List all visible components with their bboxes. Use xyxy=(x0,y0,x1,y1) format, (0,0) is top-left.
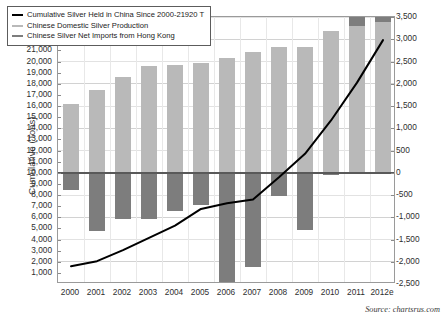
tick-mark xyxy=(391,128,394,129)
tick-mark xyxy=(58,184,61,185)
tick-mark xyxy=(58,139,61,140)
tick-mark xyxy=(58,151,61,152)
tick-mark xyxy=(391,262,394,263)
y-axis-right-tick: -2,000 xyxy=(396,257,420,265)
y-axis-right-tick: 2,500 xyxy=(396,57,417,65)
x-axis-tick-2006: 2006 xyxy=(217,287,235,297)
y-axis-left-tick: 18,000 xyxy=(27,79,52,87)
tick-mark xyxy=(58,73,61,74)
tick-mark xyxy=(391,62,394,63)
source-caption: Source: chartsrus.com xyxy=(365,305,440,314)
y-axis-left-tick: 5,000 xyxy=(31,223,52,231)
x-axis-tick-2005: 2005 xyxy=(191,287,209,297)
tick-mark xyxy=(58,106,61,107)
tick-mark xyxy=(391,151,394,152)
tick-mark xyxy=(391,17,394,18)
legend-swatch-icon xyxy=(12,25,23,27)
plot-area xyxy=(57,16,395,283)
x-axis-tick-2012e: 2012e xyxy=(370,287,393,297)
x-axis-tick-2011: 2011 xyxy=(347,287,365,297)
legend-item[interactable]: Chinese Silver Net Imports from Hong Kon… xyxy=(12,31,204,42)
y-axis-right-tick: 0 xyxy=(396,168,401,176)
chart-root: Cumulative (Tons) Annual Production & Ne… xyxy=(0,0,448,330)
tick-mark xyxy=(58,217,61,218)
tick-mark xyxy=(58,128,61,129)
tick-mark xyxy=(391,195,394,196)
x-axis-tick-2009: 2009 xyxy=(295,287,313,297)
tick-mark xyxy=(391,173,394,174)
y-axis-left-tick: 11,000 xyxy=(27,157,52,165)
x-axis-labels: 2000200120022003200420052006200720082009… xyxy=(57,287,395,301)
x-axis-tick-2008: 2008 xyxy=(269,287,287,297)
y-axis-left-tick: 9,000 xyxy=(31,179,52,187)
tick-mark xyxy=(391,217,394,218)
x-axis-tick-2010: 2010 xyxy=(321,287,339,297)
legend-item[interactable]: Chinese Domestic Silver Production xyxy=(12,21,204,32)
tick-mark xyxy=(391,240,394,241)
y-axis-left-tick: 14,000 xyxy=(27,123,52,131)
y-axis-right-tick: 3,500 xyxy=(396,12,417,20)
y-axis-left-tick: 13,000 xyxy=(27,134,52,142)
tick-mark xyxy=(58,162,61,163)
legend-item[interactable]: Cumulative Silver Held in China Since 20… xyxy=(12,10,204,21)
tick-mark xyxy=(391,84,394,85)
y-axis-left-tick: 21,000 xyxy=(27,45,52,53)
y-axis-left-tick: 17,000 xyxy=(27,90,52,98)
y-axis-left-tick: 4,000 xyxy=(31,235,52,243)
tick-mark xyxy=(58,62,61,63)
y-axis-left-tick: 15,000 xyxy=(27,112,52,120)
y-axis-left-tick: 7,000 xyxy=(31,201,52,209)
y-axis-left-tick: 3,000 xyxy=(31,246,52,254)
x-axis-tick-2001: 2001 xyxy=(87,287,105,297)
chart-legend: Cumulative Silver Held in China Since 20… xyxy=(7,6,211,46)
y-axis-left-tick: 1,000 xyxy=(31,268,52,276)
tick-mark xyxy=(58,240,61,241)
tick-mark xyxy=(391,106,394,107)
y-axis-right-tick: 2,000 xyxy=(396,79,417,87)
tick-mark xyxy=(58,173,61,174)
cumulative-line-series xyxy=(58,17,395,283)
y-axis-left-tick: 10,000 xyxy=(27,168,52,176)
y-axis-left-tick: 20,000 xyxy=(27,57,52,65)
y-axis-right-tick: 1,500 xyxy=(396,101,417,109)
x-axis-tick-2002: 2002 xyxy=(113,287,131,297)
legend-label: Cumulative Silver Held in China Since 20… xyxy=(27,10,204,21)
legend-label: Chinese Silver Net Imports from Hong Kon… xyxy=(27,31,175,42)
y-axis-left-tick: 8,000 xyxy=(31,190,52,198)
y-axis-left-tick: 6,000 xyxy=(31,212,52,220)
y-axis-right-tick: 3,000 xyxy=(396,34,417,42)
y-axis-right-tick: -500 xyxy=(396,190,413,198)
tick-mark xyxy=(58,206,61,207)
tick-mark xyxy=(58,228,61,229)
y-axis-left-tick: 16,000 xyxy=(27,101,52,109)
legend-label: Chinese Domestic Silver Production xyxy=(27,21,148,32)
tick-mark xyxy=(58,117,61,118)
legend-swatch-icon xyxy=(12,14,23,16)
tick-mark xyxy=(391,39,394,40)
legend-swatch-icon xyxy=(12,35,23,37)
x-axis-tick-2000: 2000 xyxy=(61,287,79,297)
tick-mark xyxy=(58,84,61,85)
tick-mark xyxy=(58,50,61,51)
tick-mark xyxy=(58,251,61,252)
y-axis-right-tick: -2,500 xyxy=(396,279,420,287)
y-axis-right-tick: 500 xyxy=(396,146,410,154)
x-axis-tick-2007: 2007 xyxy=(243,287,261,297)
y-axis-right-tick: -1,000 xyxy=(396,212,420,220)
y-axis-left-tick: 12,000 xyxy=(27,146,52,154)
tick-mark xyxy=(58,195,61,196)
y-axis-left-tick: 2,000 xyxy=(31,257,52,265)
x-axis-tick-2003: 2003 xyxy=(139,287,157,297)
tick-mark xyxy=(58,262,61,263)
y-axis-left-tick: 19,000 xyxy=(27,68,52,76)
y-axis-right-tick: -1,500 xyxy=(396,235,420,243)
cumulative-line-path xyxy=(71,40,383,266)
y-axis-right-tick: 1,000 xyxy=(396,123,417,131)
x-axis-tick-2004: 2004 xyxy=(165,287,183,297)
tick-mark xyxy=(58,95,61,96)
tick-mark xyxy=(58,273,61,274)
